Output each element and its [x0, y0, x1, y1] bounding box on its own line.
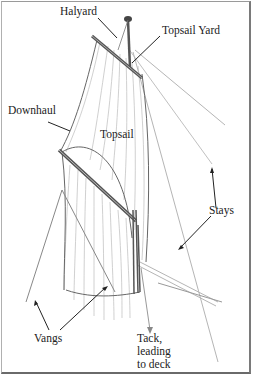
label-downhaul: Downhaul [8, 104, 56, 117]
label-vangs: Vangs [34, 332, 62, 345]
label-tack-line3: to deck [137, 358, 177, 371]
sail-hatching [64, 42, 144, 320]
label-stays: Stays [209, 204, 234, 217]
label-topsail: Topsail [100, 128, 134, 141]
sail-rigging-drawing [0, 0, 255, 378]
label-topsail-yard: Topsail Yard [162, 24, 220, 37]
label-tack-line1: Tack, [137, 332, 177, 345]
label-tack: Tack, leading to deck [137, 332, 177, 371]
label-halyard: Halyard [60, 5, 97, 18]
vangs-lines [26, 190, 115, 302]
stay-upper [128, 48, 212, 164]
label-tack-line2: leading [137, 345, 177, 358]
